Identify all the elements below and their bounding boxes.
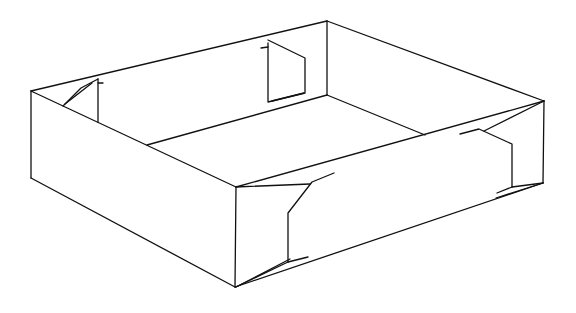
left-outer-wall bbox=[31, 91, 235, 287]
inner-floor-edges bbox=[147, 21, 425, 145]
front-outer-wall bbox=[235, 101, 544, 287]
box-drawing bbox=[0, 0, 576, 313]
back-corner-flap bbox=[261, 40, 305, 102]
top-rim bbox=[31, 21, 544, 187]
box-diagram bbox=[0, 0, 576, 313]
right-corner-flap bbox=[460, 101, 544, 198]
